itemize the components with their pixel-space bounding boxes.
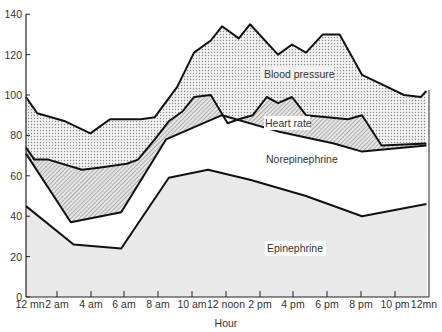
x-tick-label: 2 am	[45, 298, 69, 310]
x-tick-label: 6 am	[112, 298, 136, 310]
x-tick-label: 4 am	[79, 298, 103, 310]
circadian-chart: 020406080100120140 12 mn2 am4 am6 am8 am…	[0, 0, 442, 332]
x-axis-title: Hour	[215, 317, 238, 329]
y-tick-label: 60	[10, 170, 22, 182]
y-tick-label: 140	[4, 8, 22, 20]
y-tick-label: 120	[4, 49, 22, 61]
y-tick-label: 20	[10, 251, 22, 263]
x-tick-label: 2 pm	[248, 298, 272, 310]
x-tick-label: 8 pm	[349, 298, 373, 310]
y-tick-label: 40	[10, 210, 22, 222]
y-tick-label: 100	[4, 89, 22, 101]
label-blood-pressure: Blood pressure	[264, 68, 335, 80]
x-tick-label: 10 am	[177, 298, 206, 310]
x-tick-label: 12 mn	[15, 298, 44, 310]
x-tick-label: 4 pm	[281, 298, 305, 310]
x-tick-label: 10 pm	[380, 298, 409, 310]
label-norepinephrine: Norepinephrine	[266, 153, 338, 165]
label-epinephrine: Epinephrine	[267, 242, 323, 254]
x-tick-label: 12 noon	[207, 298, 245, 310]
x-tick-label: 6 pm	[315, 298, 339, 310]
plot-areas	[26, 24, 426, 297]
y-tick-label: 80	[10, 129, 22, 141]
x-tick-label: 8 am	[146, 298, 170, 310]
x-tick-label: 12mn	[411, 298, 437, 310]
label-heart-rate: Heart rate	[265, 117, 312, 129]
